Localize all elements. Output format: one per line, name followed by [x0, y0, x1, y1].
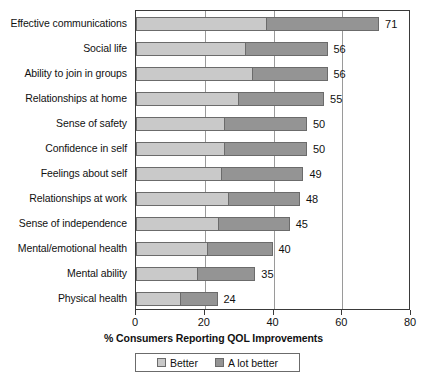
- bar-value-label: 50: [313, 117, 325, 131]
- bar-row: 48: [136, 192, 411, 206]
- bar-row: 71: [136, 17, 411, 31]
- bar-row: 50: [136, 117, 411, 131]
- bar-segment-better: [136, 142, 225, 156]
- plot-area: 715656555050494845403524: [135, 10, 410, 310]
- category-label: Feelings about self: [41, 166, 127, 180]
- bar-value-label: 71: [385, 17, 397, 31]
- x-axis-tick-label: 0: [115, 316, 155, 328]
- bar-segment-a-lot-better: [224, 117, 307, 131]
- legend-item-a-lot-better: A lot better: [215, 357, 278, 369]
- gridline: [342, 11, 343, 309]
- bar-row: 55: [136, 92, 411, 106]
- category-label: Relationships at work: [29, 191, 127, 205]
- bar-segment-better: [136, 117, 225, 131]
- category-label: Effective communications: [11, 16, 127, 30]
- x-axis-tick-mark: [410, 310, 411, 315]
- bar-segment-a-lot-better: [224, 142, 307, 156]
- bar-segment-better: [136, 217, 219, 231]
- legend-item-better: Better: [157, 357, 198, 369]
- bar-row: 40: [136, 242, 411, 256]
- category-label: Physical health: [58, 291, 127, 305]
- bar-row: 49: [136, 167, 411, 181]
- gridline: [205, 11, 206, 309]
- bar-value-label: 45: [296, 217, 308, 231]
- legend-label-better: Better: [170, 357, 198, 369]
- bar-segment-better: [136, 292, 181, 306]
- bar-segment-a-lot-better: [228, 192, 300, 206]
- bar-segment-a-lot-better: [197, 267, 255, 281]
- x-axis-tick-mark: [204, 310, 205, 315]
- bar-segment-a-lot-better: [245, 42, 328, 56]
- bar-value-label: 40: [279, 242, 291, 256]
- bar-segment-better: [136, 92, 239, 106]
- bar-value-label: 56: [334, 42, 346, 56]
- bar-segment-a-lot-better: [266, 17, 379, 31]
- x-axis-tick-label: 80: [390, 316, 427, 328]
- bar-value-label: 48: [306, 192, 318, 206]
- bar-segment-better: [136, 17, 267, 31]
- bar-row: 56: [136, 67, 411, 81]
- gridline: [274, 11, 275, 309]
- category-label: Mental/emotional health: [18, 241, 127, 255]
- category-label: Sense of safety: [56, 116, 127, 130]
- bar-segment-better: [136, 167, 222, 181]
- x-axis-tick-mark: [273, 310, 274, 315]
- bar-segment-better: [136, 42, 246, 56]
- bar-value-label: 50: [313, 142, 325, 156]
- bar-segment-a-lot-better: [180, 292, 218, 306]
- category-label: Ability to join in groups: [24, 66, 127, 80]
- bar-value-label: 24: [224, 292, 236, 306]
- bar-segment-better: [136, 192, 229, 206]
- category-label: Confidence in self: [45, 141, 127, 155]
- category-label: Social life: [83, 41, 127, 55]
- qol-improvements-bar-chart: Effective communicationsSocial lifeAbili…: [0, 0, 427, 380]
- bar-segment-better: [136, 67, 253, 81]
- bar-segment-a-lot-better: [218, 217, 290, 231]
- bar-segment-a-lot-better: [207, 242, 272, 256]
- legend-swatch-a-lot-better: [215, 358, 224, 367]
- category-label: Sense of independence: [19, 216, 127, 230]
- bar-row: 45: [136, 217, 411, 231]
- bar-row: 56: [136, 42, 411, 56]
- bar-segment-a-lot-better: [238, 92, 324, 106]
- bar-segment-better: [136, 267, 198, 281]
- x-axis-tick-mark: [341, 310, 342, 315]
- bar-row: 35: [136, 267, 411, 281]
- x-axis-title: % Consumers Reporting QOL Improvements: [0, 332, 427, 344]
- legend-label-a-lot-better: A lot better: [228, 357, 278, 369]
- bar-row: 24: [136, 292, 411, 306]
- bar-segment-a-lot-better: [221, 167, 304, 181]
- bar-value-label: 35: [261, 267, 273, 281]
- bar-segment-better: [136, 242, 208, 256]
- category-label: Mental ability: [67, 266, 127, 280]
- bar-row: 50: [136, 142, 411, 156]
- x-axis-tick-label: 40: [253, 316, 293, 328]
- x-axis-tick-mark: [135, 310, 136, 315]
- bar-value-label: 56: [334, 67, 346, 81]
- x-axis-tick-label: 60: [321, 316, 361, 328]
- chart-legend: Better A lot better: [135, 353, 300, 372]
- bar-value-label: 55: [330, 92, 342, 106]
- bar-segment-a-lot-better: [252, 67, 328, 81]
- legend-swatch-better: [157, 358, 166, 367]
- bar-value-label: 49: [309, 167, 321, 181]
- x-axis-tick-label: 20: [184, 316, 224, 328]
- category-label: Relationships at home: [25, 91, 127, 105]
- category-axis-labels: Effective communicationsSocial lifeAbili…: [0, 10, 131, 310]
